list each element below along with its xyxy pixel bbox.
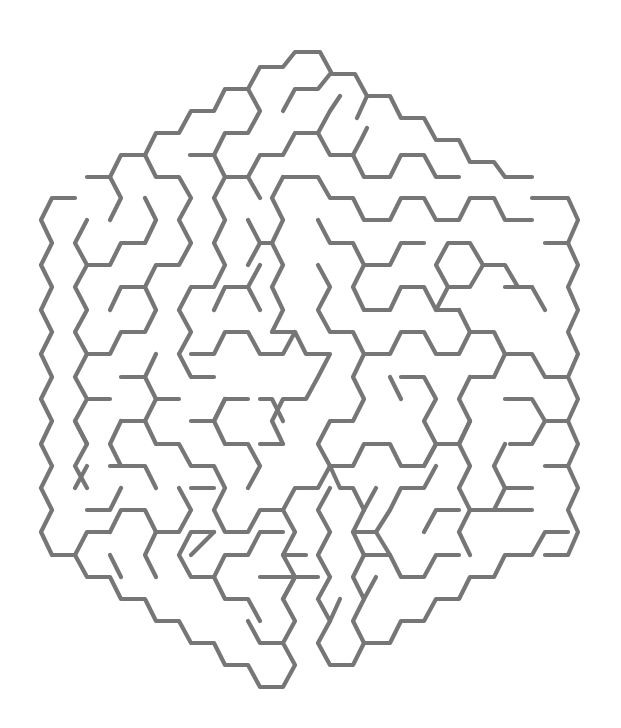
maze-walls (0, 0, 621, 728)
hex-maze (0, 0, 621, 728)
maze-background (0, 0, 621, 728)
